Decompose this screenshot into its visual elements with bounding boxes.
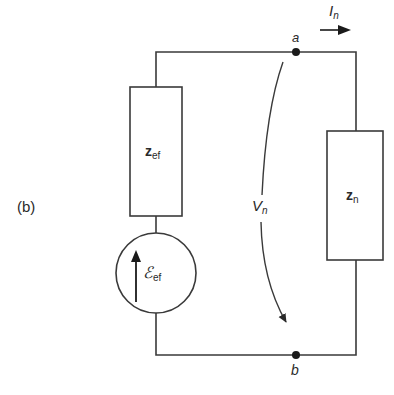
node-a-label: a [292, 30, 299, 45]
current-arrow-icon [320, 25, 351, 35]
node-b-dot [292, 351, 300, 359]
voltage-label: Vn [252, 197, 268, 216]
node-b-label: b [291, 362, 299, 378]
circuit-diagram [0, 0, 394, 395]
emf-label: ℰef [143, 263, 161, 283]
voltage-arc-lower [261, 222, 286, 322]
panel-label: (b) [17, 198, 35, 215]
load-impedance-label: zn [346, 187, 359, 205]
current-label: In [329, 2, 339, 21]
top-wire [156, 52, 356, 131]
voltage-arc-upper [262, 62, 283, 195]
node-a-dot [292, 48, 300, 56]
source-impedance-label: zef [145, 143, 160, 161]
